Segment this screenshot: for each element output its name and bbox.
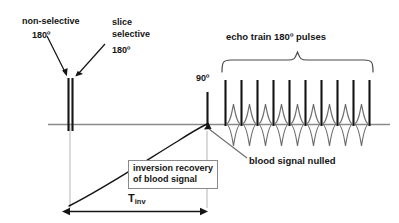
nonselective-label: non-selective xyxy=(22,16,80,27)
blood-nulled-leader xyxy=(209,129,247,158)
inversion-recovery-callout: inversion recovery of blood signal xyxy=(128,160,218,189)
slice-selective-angle-label: 180º xyxy=(112,45,130,56)
diagram-canvas xyxy=(0,0,399,223)
tinv-base: T xyxy=(128,192,135,204)
slice-selective-label-line2: selective xyxy=(112,29,150,40)
tinv-arrow xyxy=(62,208,208,215)
nonselective-arrow xyxy=(47,36,68,76)
echo-train-pulses xyxy=(226,80,370,126)
tinv-subscript: inv xyxy=(135,197,146,206)
pulse-sequence-diagram: non-selective 180º slice selective 180º … xyxy=(0,0,399,223)
excitation-angle-label: 90º xyxy=(196,73,209,84)
nonselective-angle-label: 180º xyxy=(32,30,50,41)
echo-train-label: echo train 180º pulses xyxy=(226,31,326,42)
slice-selective-label-line1: slice xyxy=(112,17,132,28)
slice-selective-arrow xyxy=(75,44,105,77)
inversion-recovery-line1: inversion recovery xyxy=(133,163,213,174)
tinv-label: Tinv xyxy=(128,192,146,204)
inversion-recovery-line2: of blood signal xyxy=(133,174,213,185)
echo-train-brace xyxy=(222,52,373,72)
blood-nulled-label: blood signal nulled xyxy=(249,155,336,166)
